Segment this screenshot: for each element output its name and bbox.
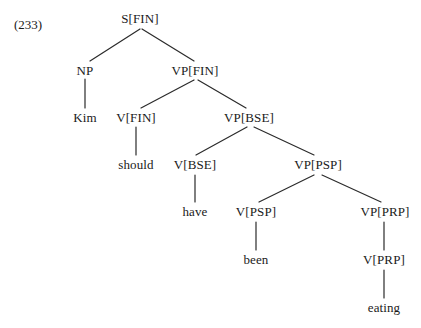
tree-edge-s-fin-to-vp-fin — [142, 29, 194, 61]
tree-edge-vp-fin-to-vp-bse — [198, 80, 246, 108]
terminal-should: should — [118, 158, 153, 171]
node-s-fin: S[FIN] — [121, 12, 158, 25]
node-vp-bse: VP[BSE] — [224, 111, 274, 124]
terminal-eating: eating — [368, 301, 400, 314]
tree-edge-vp-fin-to-v-fin — [141, 80, 194, 108]
node-v-psp: V[PSP] — [236, 205, 276, 218]
tree-edge-s-fin-to-np — [90, 29, 140, 61]
node-vp-psp: VP[PSP] — [294, 158, 342, 171]
terminal-have: have — [183, 205, 208, 218]
node-v-prp: V[PRP] — [363, 253, 405, 266]
tree-edge-vp-bse-to-v-bse — [196, 127, 247, 155]
terminal-been: been — [244, 253, 269, 266]
node-vp-fin: VP[FIN] — [172, 64, 219, 77]
node-v-fin: V[FIN] — [116, 111, 156, 124]
terminal-kim: Kim — [73, 111, 96, 124]
tree-edge-vp-psp-to-vp-prp — [322, 175, 381, 202]
tree-edge-vp-psp-to-v-psp — [259, 175, 314, 202]
node-np: NP — [77, 64, 94, 77]
node-v-bse: V[BSE] — [174, 158, 217, 171]
node-vp-prp: VP[PRP] — [360, 205, 409, 218]
tree-edge-vp-bse-to-vp-psp — [254, 127, 314, 155]
syntax-tree-figure: (233) S[FIN]NPVP[FIN]KimV[FIN]VP[BSE]sho… — [0, 0, 421, 328]
